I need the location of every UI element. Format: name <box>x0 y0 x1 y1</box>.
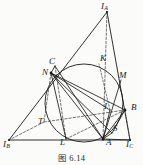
label-vertex-a: A <box>106 138 112 147</box>
label-excenter-a: IA <box>101 2 108 11</box>
label-point-n: N <box>42 68 48 77</box>
geometry-figure: IA IB IC A B C K L M N S T I 图 6.14 <box>0 0 143 165</box>
dot-N <box>50 72 53 75</box>
edge-IA-IB <box>9 12 107 140</box>
label-excenter-b: IB <box>3 140 10 149</box>
figure-drawing <box>0 0 143 165</box>
figure-caption: 图 6.14 <box>0 151 143 163</box>
label-point-k: K <box>100 54 106 63</box>
label-excenter-c: IC <box>126 140 133 149</box>
dot-B <box>124 109 127 112</box>
label-point-t: T <box>38 117 43 126</box>
label-vertex-c: C <box>49 57 55 66</box>
label-point-m: M <box>119 71 127 80</box>
label-point-s: S <box>113 124 118 133</box>
label-point-l: L <box>60 138 65 147</box>
dot-A <box>102 138 105 141</box>
label-point-i: I <box>104 102 107 111</box>
edge-N-S <box>51 73 112 133</box>
edge-C-A <box>55 66 103 139</box>
label-vertex-b: B <box>131 103 137 112</box>
dash-B-IC <box>125 110 130 140</box>
